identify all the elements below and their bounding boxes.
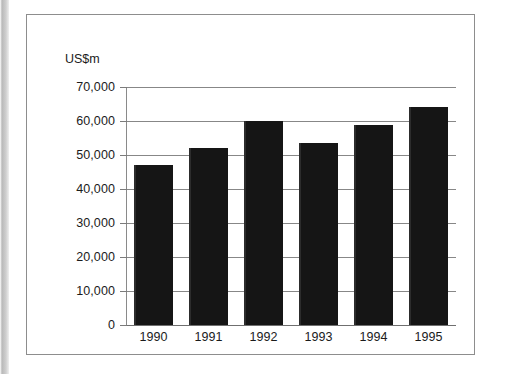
y-axis-tick-label: 30,000 [55, 217, 115, 230]
plot-area [126, 87, 456, 325]
gridline [126, 223, 456, 224]
x-axis-tick-label: 1994 [346, 331, 401, 344]
x-axis-tick-label: 1990 [126, 331, 181, 344]
y-axis-tick-mark [120, 189, 127, 190]
y-axis-tick-mark [120, 155, 127, 156]
y-axis-tick-mark [120, 87, 127, 88]
bar [409, 107, 448, 325]
gridline [126, 257, 456, 258]
y-axis-tick-mark [120, 325, 127, 326]
y-axis-tick-label: 70,000 [55, 81, 115, 94]
y-axis-tick-label: 40,000 [55, 183, 115, 196]
gridline [126, 189, 456, 190]
y-axis-tick-mark [120, 223, 127, 224]
y-axis-tick-label: 10,000 [55, 285, 115, 298]
gridline [126, 87, 456, 88]
y-axis-tick-label: 50,000 [55, 149, 115, 162]
x-axis-tick-label: 1995 [401, 331, 456, 344]
x-axis-tick-label: 1991 [181, 331, 236, 344]
chart-frame: US$m 70,00060,00050,00040,00030,00020,00… [26, 14, 475, 355]
scan-edge-artifact [0, 0, 9, 374]
y-axis-tick-label-group: 70,00060,00050,00040,00030,00020,00010,0… [53, 15, 115, 356]
y-axis-tick-mark [120, 257, 127, 258]
bar [189, 148, 228, 325]
bar [134, 165, 173, 325]
y-axis-tick-mark [120, 121, 127, 122]
y-axis-tick-label: 20,000 [55, 251, 115, 264]
gridline [126, 325, 456, 326]
y-axis-tick-label: 0 [55, 319, 115, 332]
gridline [126, 291, 456, 292]
gridline [126, 121, 456, 122]
x-axis-tick-label: 1993 [291, 331, 346, 344]
bar [244, 121, 283, 325]
x-axis-tick-label: 1992 [236, 331, 291, 344]
y-axis-tick-mark [120, 291, 127, 292]
y-axis-tick-label: 60,000 [55, 115, 115, 128]
bar [299, 143, 338, 325]
bar [354, 125, 393, 325]
gridline [126, 155, 456, 156]
